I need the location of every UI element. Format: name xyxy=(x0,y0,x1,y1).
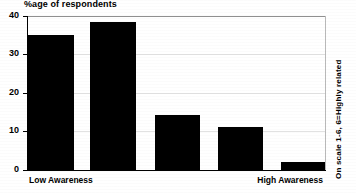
scale-note: On scale 1-6, 6=Highly related xyxy=(334,59,343,179)
bar-1 xyxy=(28,35,74,170)
bar-4 xyxy=(218,127,263,170)
side-note-container: On scale 1-6, 6=Highly related xyxy=(330,16,356,181)
bar-2 xyxy=(90,22,136,170)
y-axis-title: %age of respondents xyxy=(24,0,117,9)
bars-layer xyxy=(0,16,356,170)
x-axis-line xyxy=(27,170,326,171)
bar-5 xyxy=(281,162,325,170)
x-category-label-high: High Awareness xyxy=(257,175,323,185)
bar-chart: %age of respondents 40 30 20 10 0 Low Aw… xyxy=(0,0,356,193)
y-tick-0 xyxy=(23,170,28,171)
bar-3 xyxy=(155,115,200,170)
x-category-label-low: Low Awareness xyxy=(29,175,93,185)
